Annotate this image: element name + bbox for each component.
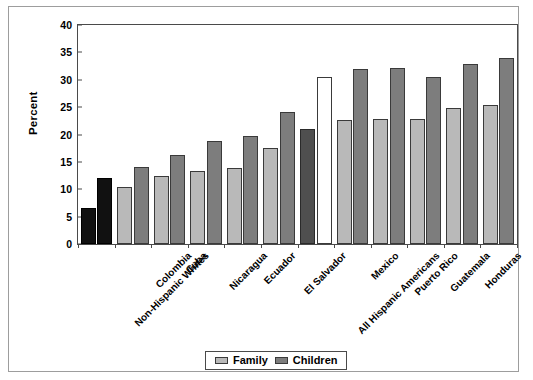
bar-children-honduras <box>463 64 478 244</box>
y-axis-tick-label: 15 <box>60 156 78 168</box>
x-axis-tick-mark <box>371 244 372 248</box>
bar-family-el-salvador <box>263 148 278 244</box>
bar-family-puerto-rico <box>373 119 388 244</box>
y-axis-tick-mark <box>78 107 82 108</box>
x-axis-tick-mark <box>407 244 408 248</box>
legend-label: Family <box>233 354 268 366</box>
bar-children-all-hispanic-americans <box>317 77 332 244</box>
y-axis-tick-label: 0 <box>66 238 78 250</box>
bar-children-ecuador <box>243 136 258 244</box>
y-axis-tick-label: 5 <box>66 211 78 223</box>
bar-children-el-salvador <box>280 112 295 244</box>
x-axis-label-nicaragua: Nicaragua <box>227 250 269 292</box>
bar-children-mexico <box>353 69 368 244</box>
bar-family-dominican-republic <box>483 105 498 244</box>
y-axis-title: Percent <box>27 91 39 135</box>
bar-family-guatemala <box>410 119 425 244</box>
x-axis-label-all-hispanic-americans: All Hispanic Americans <box>355 250 441 336</box>
light-gray-swatch <box>215 357 228 364</box>
y-axis-tick-mark <box>78 79 82 80</box>
bar-family-all-hispanic-americans <box>300 129 315 244</box>
chart-legend: FamilyChildren <box>205 351 347 370</box>
y-axis-tick-label: 40 <box>60 19 78 31</box>
y-axis-tick-mark <box>78 134 82 135</box>
y-axis-tick-mark <box>78 25 82 26</box>
x-axis-tick-mark <box>480 244 481 248</box>
x-axis-tick-mark <box>115 244 116 248</box>
bar-children-dominican-republic <box>499 58 514 244</box>
y-axis-tick-label: 35 <box>60 46 78 58</box>
x-axis-tick-mark <box>444 244 445 248</box>
bar-children-nicaragua <box>207 141 222 244</box>
x-axis-label-mexico: Mexico <box>369 250 401 282</box>
bar-children-colombia <box>134 167 149 244</box>
x-axis-tick-mark <box>334 244 335 248</box>
y-axis-tick-mark <box>78 52 82 53</box>
x-axis-tick-mark <box>517 244 518 248</box>
plot-area: 0510152025303540 <box>77 24 518 245</box>
x-axis-tick-mark <box>261 244 262 248</box>
x-axis-label-el-salvador: El Salvador <box>302 250 348 296</box>
x-axis-tick-mark <box>78 244 79 248</box>
legend-entry-children: Children <box>275 354 338 366</box>
dark-gray-swatch <box>275 357 288 364</box>
y-axis-tick-label: 25 <box>60 101 78 113</box>
bar-children-cuba <box>170 155 185 244</box>
bar-children-puerto-rico <box>390 68 405 244</box>
bar-family-colombia <box>117 187 132 244</box>
legend-entry-family: Family <box>215 354 268 366</box>
clipped-header-strip <box>0 0 533 5</box>
legend-label: Children <box>293 354 338 366</box>
y-axis-tick-label: 20 <box>60 129 78 141</box>
figure-frame: Percent 0510152025303540 Non-Hispanic Wh… <box>8 6 519 372</box>
x-axis-tick-mark <box>151 244 152 248</box>
y-axis-tick-label: 10 <box>60 183 78 195</box>
bar-family-honduras <box>446 108 461 244</box>
y-axis-tick-label: 30 <box>60 74 78 86</box>
x-axis-tick-mark <box>298 244 299 248</box>
bar-family-mexico <box>337 120 352 244</box>
bar-children-non-hispanic-whites <box>97 178 112 244</box>
bar-family-cuba <box>154 176 169 244</box>
x-axis-tick-mark <box>188 244 189 248</box>
bar-family-nicaragua <box>190 171 205 244</box>
bar-family-non-hispanic-whites <box>81 208 96 244</box>
y-axis-tick-mark <box>78 161 82 162</box>
y-axis-tick-mark <box>78 189 82 190</box>
bar-family-ecuador <box>227 168 242 244</box>
x-axis-tick-mark <box>224 244 225 248</box>
bar-children-guatemala <box>426 77 441 244</box>
